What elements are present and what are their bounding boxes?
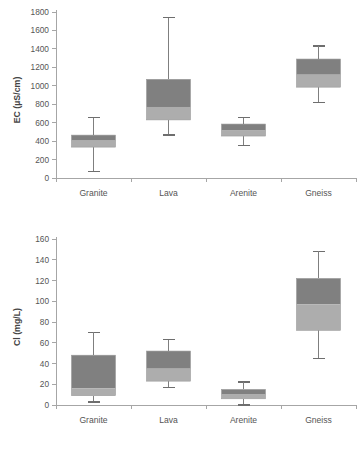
box-lower-half — [297, 75, 341, 87]
boxplot-figure: 020040060080010001200140016001800EC (µS/… — [0, 0, 364, 451]
box-upper-half — [297, 59, 341, 75]
box-group-lava — [147, 18, 191, 136]
box-group-gneiss — [297, 46, 341, 102]
y-tick-label: 60 — [40, 338, 50, 348]
y-tick-label: 120 — [35, 276, 49, 286]
y-tick-label: 1600 — [31, 25, 50, 35]
box-lower-half — [222, 130, 266, 136]
y-tick-label: 400 — [35, 136, 49, 146]
box-lower-half — [72, 388, 116, 395]
box-lower-half — [72, 141, 116, 147]
x-category-label-arenite: Arenite — [230, 188, 257, 198]
y-tick-label: 1800 — [31, 7, 50, 17]
y-tick-label: 100 — [35, 296, 49, 306]
box-group-arenite — [222, 382, 266, 405]
y-tick-label: 200 — [35, 155, 49, 165]
box-lower-half — [222, 395, 266, 399]
ec-boxplot-svg: 020040060080010001200140016001800EC (µS/… — [0, 0, 364, 225]
y-tick-label: 40 — [40, 359, 50, 369]
y-tick-label: 0 — [44, 173, 49, 183]
box-lower-half — [147, 107, 191, 120]
box-upper-half — [147, 79, 191, 107]
cl-boxplot-svg: 020406080100120140160Cl (mg/L)GraniteLav… — [0, 225, 364, 451]
y-tick-label: 1400 — [31, 44, 50, 54]
chart-panel-cl: 020406080100120140160Cl (mg/L)GraniteLav… — [0, 225, 364, 451]
box-lower-half — [147, 369, 191, 381]
x-category-label-gneiss: Gneiss — [305, 188, 332, 198]
box-group-granite — [72, 332, 116, 402]
y-tick-label: 600 — [35, 118, 49, 128]
y-tick-label: 140 — [35, 255, 49, 265]
y-tick-label: 80 — [40, 317, 50, 327]
box-upper-half — [297, 278, 341, 304]
box-lower-half — [297, 304, 341, 330]
box-group-granite — [72, 118, 116, 172]
chart-panel-ec: 020040060080010001200140016001800EC (µS/… — [0, 0, 364, 225]
box-group-arenite — [222, 118, 266, 146]
x-category-label-granite: Granite — [79, 188, 107, 198]
box-upper-half — [222, 124, 266, 130]
y-tick-label: 800 — [35, 99, 49, 109]
y-tick-label: 20 — [40, 379, 50, 389]
y-tick-label: 160 — [35, 234, 49, 244]
x-category-label-gneiss: Gneiss — [305, 415, 332, 425]
box-group-gneiss — [297, 251, 341, 358]
y-tick-label: 1000 — [31, 81, 50, 91]
box-upper-half — [72, 135, 116, 141]
box-group-lava — [147, 340, 191, 388]
x-category-label-lava: Lava — [159, 415, 178, 425]
y-tick-label: 0 — [44, 400, 49, 410]
y-tick-label: 1200 — [31, 62, 50, 72]
x-category-label-arenite: Arenite — [230, 415, 257, 425]
x-category-label-granite: Granite — [79, 415, 107, 425]
box-upper-half — [222, 389, 266, 394]
y-axis-title: Cl (mg/L) — [12, 308, 22, 346]
box-upper-half — [72, 355, 116, 388]
y-axis-title: EC (µS/cm) — [12, 77, 22, 124]
x-category-label-lava: Lava — [159, 188, 178, 198]
box-upper-half — [147, 351, 191, 369]
